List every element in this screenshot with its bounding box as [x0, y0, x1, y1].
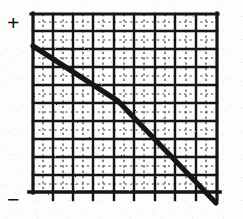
figure-canvas: + −: [0, 0, 243, 219]
plot-area: [0, 0, 243, 219]
grid-major-horizontal: [33, 31, 217, 175]
